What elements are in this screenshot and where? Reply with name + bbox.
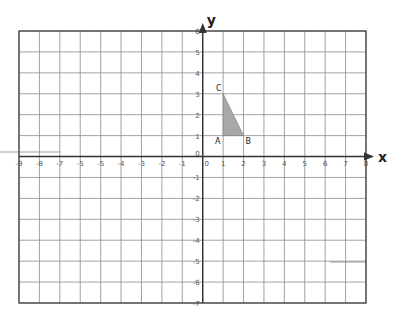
y-tick-label: -3 xyxy=(193,216,200,224)
y-tick-label: -7 xyxy=(193,300,200,308)
y-tick-label: 4 xyxy=(195,70,200,78)
x-tick-label: 7 xyxy=(343,160,347,168)
y-tick-label: 6 xyxy=(195,28,200,36)
y-axis-label: y xyxy=(207,12,216,28)
x-tick-label: 3 xyxy=(262,160,266,168)
y-tick-labels: 6543210-1-2-3-4-5-6-7 xyxy=(193,28,201,308)
faint-overlay-lines xyxy=(0,152,366,262)
y-tick-label: 0 xyxy=(195,150,199,158)
x-tick-label: 6 xyxy=(323,160,328,168)
x-tick-label: -5 xyxy=(77,160,84,168)
x-tick-label: -1 xyxy=(179,160,186,168)
y-tick-label: 1 xyxy=(195,133,199,141)
y-tick-label: -2 xyxy=(193,195,200,203)
x-tick-label: 2 xyxy=(241,160,245,168)
y-tick-label: 2 xyxy=(195,112,199,120)
y-tick-label: 5 xyxy=(195,49,199,57)
x-tick-label: 4 xyxy=(282,160,287,168)
x-tick-label: 8 xyxy=(364,160,368,168)
x-tick-label: 1 xyxy=(221,160,225,168)
y-tick-label: -5 xyxy=(193,258,200,266)
x-tick-label: -3 xyxy=(138,160,145,168)
x-tick-labels: -9-8-7-5-5-4-3-2-1012345678 xyxy=(16,160,369,168)
y-tick-label: -6 xyxy=(193,279,201,287)
x-tick-label: -5 xyxy=(97,160,104,168)
y-tick-label: 3 xyxy=(195,91,199,99)
x-tick-label: -8 xyxy=(36,160,43,168)
y-tick-label: -4 xyxy=(193,237,201,245)
x-tick-label: -2 xyxy=(158,160,165,168)
x-tick-label: -7 xyxy=(56,160,63,168)
x-tick-label: 0 xyxy=(204,160,208,168)
vertex-label-a: A xyxy=(215,137,221,146)
y-axis-arrow-icon xyxy=(199,23,207,33)
y-tick-label: -1 xyxy=(193,174,200,182)
coordinate-grid: ABC -9-8-7-5-5-4-3-2-1012345678 6543210-… xyxy=(0,0,401,318)
x-tick-label: 5 xyxy=(303,160,307,168)
vertex-label-b: B xyxy=(246,137,252,146)
x-axis-label: x xyxy=(378,149,387,165)
x-tick-label: -9 xyxy=(16,160,23,168)
x-tick-label: -4 xyxy=(118,160,126,168)
vertex-label-c: C xyxy=(216,84,222,93)
